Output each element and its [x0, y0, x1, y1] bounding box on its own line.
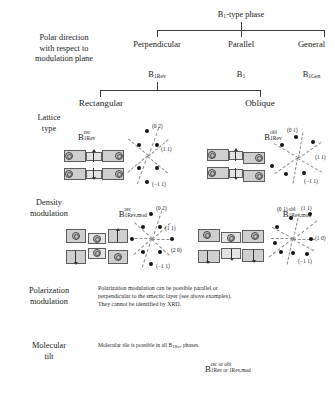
diffraction-spot [145, 180, 149, 184]
diffraction-spot [130, 237, 134, 241]
symbol-tilt-left: Brec or obl1Rev or 1Rev,mod [205, 364, 251, 376]
polarization-arrow [235, 150, 236, 161]
diffraction-axis [128, 139, 149, 156]
molecule-coil-icon [67, 172, 72, 177]
polarization-text-line1: Polarization modulation can be possible … [98, 284, 313, 292]
diffraction-spot [158, 250, 162, 254]
molecule-brick [229, 151, 243, 160]
molecule-coil-icon [210, 153, 215, 158]
diffraction-spot [289, 216, 293, 220]
row-label-density-modulation: Density modulation [6, 198, 92, 219]
molecule-coil-icon [95, 251, 100, 256]
tree-connector-rectangular [100, 90, 101, 97]
phase-label-b1: B1 [213, 70, 269, 79]
diffraction-spot [302, 171, 306, 175]
polarization-arrowhead [230, 258, 234, 261]
diffraction-spot [141, 250, 145, 254]
molecule-coil-icon [116, 255, 121, 260]
tree-connector-root [241, 22, 242, 30]
molecule-coil-icon [229, 236, 234, 241]
tree-connector-lattice-bus [100, 90, 260, 91]
branch-label-general: General [288, 39, 335, 49]
tilt-note-post: phases. [182, 342, 200, 348]
lattice-type-oblique: Oblique [228, 98, 292, 108]
molecule-coil-icon [210, 171, 215, 176]
molecule-coil-icon [205, 233, 210, 238]
tree-root-label: B1-type phase [196, 10, 286, 19]
diffraction-index-label: (−1 1) [304, 178, 318, 184]
row-label-lattice-type: Lattice type [10, 113, 88, 134]
polarization-arrowhead [206, 261, 210, 264]
row-label-lattice-line2: type [10, 124, 88, 135]
row-label-lattice-line1: Lattice [10, 113, 88, 124]
molecular-tilt-note: Molecular tile is possible in all B1Rev … [98, 341, 318, 351]
molecule-coil-icon [117, 172, 122, 177]
diffraction-index-label: (0 1) [287, 127, 298, 133]
polarization-arrow [117, 230, 118, 242]
row-label-polar-direction: Polar direction with respect to modulati… [8, 33, 120, 65]
diffraction-spot [279, 250, 283, 254]
tilt-note-pre: Molecular tile is possible in all B [98, 342, 172, 348]
polarization-arrowhead [252, 260, 256, 263]
molecule-brick [108, 229, 128, 243]
tree-connector-b1rev-drop [157, 82, 158, 90]
symbol-subscript: 1Rev [84, 136, 96, 141]
polarization-arrowhead [116, 228, 120, 231]
diffraction-index-label: (2 0) [171, 247, 182, 253]
tree-connector-perpendicular [157, 30, 158, 37]
diffraction-index-label: (−1 1) [156, 263, 170, 269]
diffraction-index-label: (−1 1) [152, 181, 166, 187]
row-label-density-line1: Density [6, 198, 92, 209]
diffraction-index-label: (1 1) [165, 225, 176, 231]
diffraction-spot [149, 212, 153, 216]
row-label-density-line2: modulation [6, 209, 92, 220]
diffraction-spot [137, 166, 141, 170]
diffraction-index-label: (−1 1) [298, 258, 312, 264]
row-label-polar-line1: Polar direction [8, 33, 120, 44]
molecule-coil-icon [117, 154, 122, 159]
diffraction-pattern-rectangular: (0 2) (1 1) (−1 1) [130, 124, 186, 188]
polarization-text-line3: They cannot be identified by XRD. [98, 300, 313, 308]
diffraction-spot [170, 237, 174, 241]
molecule-coil-icon [74, 234, 79, 239]
diffraction-index-label: (1 1) [315, 154, 326, 160]
molecular-schematic-rectangular [64, 148, 126, 190]
molecule-brick [86, 152, 102, 161]
diffraction-spot [294, 135, 298, 139]
tree-connector-parallel [241, 30, 242, 37]
diffraction-spot [155, 143, 159, 147]
diffraction-pattern-oblique: (0 1) (1 1) (−1 1) [268, 126, 332, 188]
branch-label-parallel: Parallel [205, 39, 277, 49]
molecular-schematic-rectangular-mod [66, 228, 132, 272]
diffraction-axis [147, 156, 168, 173]
diffraction-spot [141, 225, 145, 229]
diffraction-spot [273, 241, 277, 245]
tree-connector-general [324, 30, 325, 37]
polarization-arrow [93, 151, 94, 162]
diffraction-spot [280, 143, 284, 147]
polarization-text-line2: perpendicular to the smectic layer (see … [98, 292, 313, 300]
symbol-b-rec-1rev: Brec1Rev [78, 132, 95, 143]
row-label-polar-line3: modulation plane [8, 54, 120, 65]
polarization-arrowhead [234, 177, 238, 180]
phase-label-b1rev: B1Rev [125, 70, 189, 79]
tilt-note-subscript: 1Rev [172, 344, 181, 349]
row-label-polar-line2: with respect to [8, 44, 120, 55]
phase-sub-b1gen: 1Gen [308, 73, 320, 79]
diffraction-spot [305, 252, 309, 256]
diffraction-axis [293, 158, 298, 184]
polarization-modulation-text: Polarization modulation can be possible … [98, 284, 313, 309]
row-label-molecular-tilt: Molecular tilt [6, 341, 92, 362]
diffraction-index-label: (0 2) [152, 123, 163, 129]
molecular-schematic-oblique-mod [198, 228, 270, 272]
diffraction-spot [291, 251, 295, 255]
diffraction-index-label: (0 2) [156, 205, 167, 211]
tree-connector-oblique [260, 90, 261, 97]
diffraction-axis [274, 143, 299, 158]
molecule-coil-icon [95, 237, 100, 242]
diffraction-index-label: (1 1) [301, 205, 312, 211]
diffraction-axis [271, 238, 293, 239]
phase-sub-b1: 1 [242, 73, 245, 79]
diffraction-spot [158, 225, 162, 229]
diffraction-index-label: (0 1) [277, 206, 288, 212]
